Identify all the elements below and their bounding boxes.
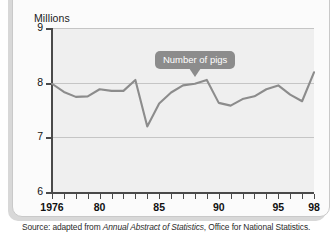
x-tick-1978: [76, 194, 77, 199]
source-note: Source: adapted from Annual Abstract of …: [22, 222, 310, 232]
callout-number-of-pigs: Number of pigs: [155, 51, 235, 69]
x-tick-1977: [64, 194, 65, 199]
x-tick-label-1998: 98: [308, 201, 320, 213]
chart-container: Millions 9 8 7 6 197680859095: [22, 12, 322, 212]
source-suffix: , Office for National Statistics.: [204, 222, 310, 232]
x-tick-1988: [195, 194, 196, 199]
source-prefix: Source: adapted from: [22, 222, 103, 232]
y-tick-label-7: 7: [37, 130, 43, 142]
x-tick-1995: [278, 194, 279, 199]
x-tick-1989: [207, 194, 208, 199]
x-tick-1982: [123, 194, 124, 199]
figure-screenshot: Millions 9 8 7 6 197680859095: [0, 0, 332, 245]
x-tick-1980: [100, 194, 101, 199]
x-tick-1996: [290, 194, 291, 199]
x-tick-1983: [135, 194, 136, 199]
y-tick-label-8: 8: [37, 76, 43, 88]
y-tick-label-9: 9: [37, 21, 43, 33]
x-tick-1998: [314, 194, 315, 199]
x-tick-1987: [183, 194, 184, 199]
x-tick-1990: [219, 194, 220, 199]
x-tick-1997: [302, 194, 303, 199]
x-tick-1976: [52, 194, 53, 199]
x-tick-1986: [171, 194, 172, 199]
x-tick-1992: [243, 194, 244, 199]
y-tick-label-6: 6: [37, 185, 43, 197]
series-line-number-of-pigs: [52, 72, 314, 126]
source-title: Annual Abstract of Statistics: [103, 222, 204, 232]
x-tick-1979: [88, 194, 89, 199]
x-tick-label-1985: 85: [153, 201, 165, 213]
x-tick-1994: [266, 194, 267, 199]
x-tick-1985: [159, 194, 160, 199]
x-tick-1981: [112, 194, 113, 199]
x-tick-label-1976: 1976: [40, 201, 63, 213]
x-tick-1993: [254, 194, 255, 199]
x-tick-label-1980: 80: [94, 201, 106, 213]
x-tick-1991: [231, 194, 232, 199]
callout-tail: [189, 68, 201, 77]
x-tick-label-1990: 90: [213, 201, 225, 213]
x-tick-label-1995: 95: [272, 201, 284, 213]
x-tick-1984: [147, 194, 148, 199]
